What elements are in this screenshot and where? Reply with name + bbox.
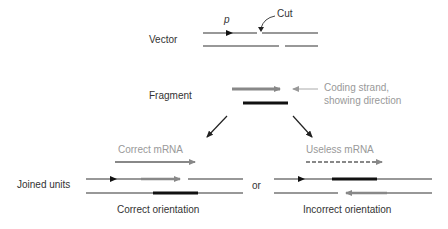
correct-orientation-label: Correct orientation xyxy=(117,204,199,216)
coding-strand-label-line1: Coding strand, xyxy=(324,82,389,94)
fragment-label: Fragment xyxy=(149,90,192,102)
arrow-to-incorrect-icon xyxy=(293,116,312,137)
incorrect-joined-unit xyxy=(274,176,432,193)
cut-pointer-icon xyxy=(261,16,275,28)
joined-units-label: Joined units xyxy=(17,179,70,191)
cloning-orientation-diagram: p Cut Vector Fragment Coding strand, sho… xyxy=(0,0,448,229)
arrow-to-correct-icon xyxy=(207,116,227,137)
diagram-graphics xyxy=(0,0,448,229)
cut-label: Cut xyxy=(277,8,293,20)
correct-joined-unit xyxy=(86,176,243,193)
useless-mrna-label: Useless mRNA xyxy=(306,144,374,156)
promoter-arrow-icon xyxy=(226,30,233,36)
promoter-label: p xyxy=(224,14,230,26)
coding-strand-label-line2: showing direction xyxy=(324,95,401,107)
incorrect-orientation-label: Incorrect orientation xyxy=(303,204,391,216)
or-label: or xyxy=(252,180,261,192)
vector-dna xyxy=(203,16,318,46)
fragment-dna xyxy=(232,89,318,103)
vector-label: Vector xyxy=(149,34,177,46)
correct-mrna-label: Correct mRNA xyxy=(118,144,183,156)
